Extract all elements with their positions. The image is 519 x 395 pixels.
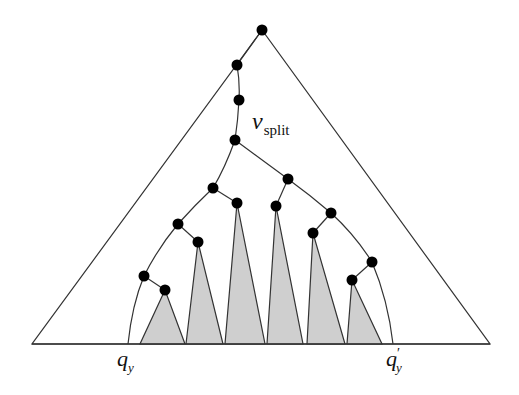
right-path-node (367, 257, 378, 268)
q-y-main: q (117, 346, 128, 371)
left-path-node (139, 271, 150, 282)
subtree-6 (347, 280, 382, 344)
q-prime-y-label: q′y (386, 346, 402, 372)
q-y-subscript: y (128, 360, 134, 375)
root-node (257, 25, 268, 36)
left-path-node (173, 219, 184, 230)
subtree-1 (140, 290, 185, 344)
outer-tree-triangle (32, 30, 490, 344)
left-search-path (128, 140, 235, 344)
subtree-root-node (347, 275, 358, 286)
split-label-main: v (252, 108, 263, 134)
subtree-root-node (271, 201, 282, 212)
q-y-label: qy (117, 346, 134, 372)
subtree-root-node (232, 198, 243, 209)
subtree-root-node (160, 285, 171, 296)
tree-nodes (139, 25, 378, 296)
right-path-node (326, 208, 337, 219)
subtree-4 (267, 206, 303, 344)
subtree-root-node (308, 228, 319, 239)
subtree-3 (225, 203, 265, 344)
split-label-subscript: split (264, 122, 290, 138)
q-prime-mark: ′ (397, 346, 400, 361)
subtree-root-node (193, 237, 204, 248)
split-node-label: vsplit (252, 108, 290, 135)
path-node (234, 95, 245, 106)
q-prime-subscript: y (396, 360, 402, 375)
subtree-2 (186, 242, 223, 344)
left-path-node (208, 183, 219, 194)
subtree-5 (307, 233, 345, 344)
split-node (230, 135, 241, 146)
range-tree-diagram (0, 0, 519, 395)
right-path-node (283, 174, 294, 185)
path-node (232, 60, 243, 71)
